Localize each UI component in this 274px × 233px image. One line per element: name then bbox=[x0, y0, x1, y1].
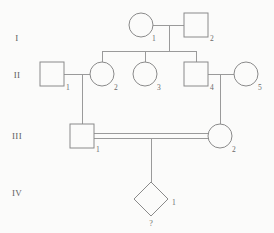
individual-ii-2-female-symbol[interactable] bbox=[90, 62, 114, 86]
generation-label-iii: III bbox=[12, 131, 22, 141]
individual-i-2-male-symbol[interactable] bbox=[184, 13, 208, 37]
individual-iv-1-unknown-sex-diamond-symbol[interactable] bbox=[134, 182, 168, 216]
pedigree-canvas: I II III IV bbox=[0, 0, 274, 233]
generation-labels: I II III IV bbox=[12, 33, 22, 198]
individual-iv-1-unknown-phenotype-marker: ? bbox=[149, 219, 153, 228]
individual-i-1-female-symbol[interactable] bbox=[129, 13, 153, 37]
individual-ii-1-number: 1 bbox=[66, 83, 70, 92]
generation-label-i: I bbox=[15, 33, 18, 43]
individual-iii-2-female-symbol[interactable] bbox=[208, 124, 232, 148]
individual-iii-1-male-symbol[interactable] bbox=[70, 124, 94, 148]
individual-symbols bbox=[40, 13, 258, 216]
individual-ii-2-number: 2 bbox=[114, 83, 118, 92]
connector-lines bbox=[64, 25, 234, 182]
individual-number-labels: 1 2 1 2 3 4 5 1 2 1 ? bbox=[66, 34, 262, 228]
individual-ii-1-male-symbol[interactable] bbox=[40, 62, 64, 86]
generation-label-iv: IV bbox=[12, 188, 22, 198]
individual-ii-5-female-symbol[interactable] bbox=[234, 62, 258, 86]
individual-ii-5-number: 5 bbox=[258, 83, 262, 92]
individual-iii-1-number: 1 bbox=[96, 145, 100, 154]
individual-i-2-number: 2 bbox=[210, 34, 214, 43]
individual-ii-3-number: 3 bbox=[157, 83, 161, 92]
individual-ii-4-number: 4 bbox=[210, 83, 214, 92]
individual-iv-1-number: 1 bbox=[172, 198, 176, 207]
pedigree-chart: I II III IV bbox=[0, 0, 274, 233]
individual-ii-4-male-symbol[interactable] bbox=[184, 62, 208, 86]
individual-iii-2-number: 2 bbox=[232, 145, 236, 154]
individual-i-1-number: 1 bbox=[152, 34, 156, 43]
individual-ii-3-female-symbol[interactable] bbox=[133, 62, 157, 86]
generation-label-ii: II bbox=[14, 70, 21, 80]
